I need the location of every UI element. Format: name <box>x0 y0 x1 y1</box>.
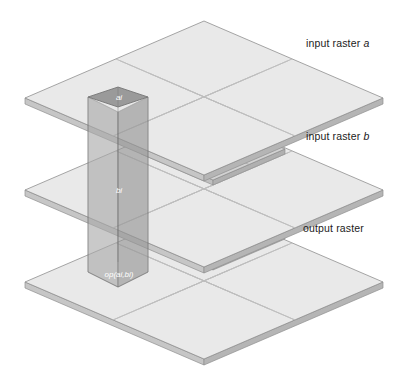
isometric-scene: ai bi op(ai,bi) input raster a input ras… <box>0 0 404 366</box>
column-face-left <box>88 97 118 287</box>
label-input-raster-a: input raster a <box>306 37 369 49</box>
label-input-raster-b: input raster b <box>306 130 369 142</box>
cell-label-ai: ai <box>116 93 122 102</box>
raster-algebra-diagram: ai bi op(ai,bi) input raster a input ras… <box>0 0 404 366</box>
column-face-right <box>118 97 148 287</box>
cell-label-op: op(ai,bi) <box>105 270 134 279</box>
label-output-raster: output raster <box>303 222 364 234</box>
cell-label-bi: bi <box>116 186 122 195</box>
